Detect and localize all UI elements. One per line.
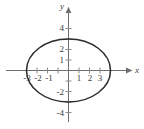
coordinate-plane-svg [0, 0, 144, 129]
x-tick-label--3: -3 [23, 74, 31, 83]
x-tick-label-3: 3 [98, 74, 103, 83]
y-axis-name-label: y [60, 2, 64, 11]
x-tick-label--1: -1 [45, 74, 53, 83]
y-tick-label-1: 1 [55, 56, 64, 65]
x-tick-label--2: -2 [34, 74, 42, 83]
y-tick-label-2: 2 [55, 45, 64, 54]
y-axis [66, 7, 72, 122]
x-axis-name-label: x [135, 66, 139, 75]
x-tick-label-2: 2 [88, 74, 93, 83]
x-tick-label-1: 1 [77, 74, 82, 83]
y-tick-label--4: -4 [50, 109, 64, 118]
ellipse-graph-figure: -3 -2 -1 1 2 3 4 2 1 -2 -4 y x [0, 0, 144, 129]
y-tick-label--2: -2 [50, 88, 64, 97]
y-tick-label-4: 4 [55, 24, 64, 33]
